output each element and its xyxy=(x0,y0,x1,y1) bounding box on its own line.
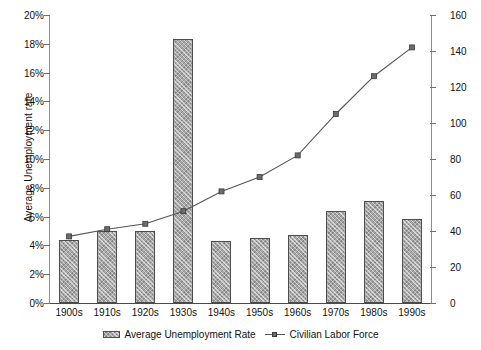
y-left-tick-mark xyxy=(44,130,50,131)
legend-label-unemployment: Average Unemployment Rate xyxy=(125,329,256,340)
y-left-tick-label: 0% xyxy=(2,298,44,309)
x-axis-label-1980s: 1980s xyxy=(360,307,387,318)
x-axis-line xyxy=(49,303,432,304)
y-left-tick-mark xyxy=(44,159,50,160)
x-axis-label-1900s: 1900s xyxy=(55,307,82,318)
y-left-tick-mark xyxy=(44,15,50,16)
civilian-labor-force-line xyxy=(69,47,412,236)
x-axis-label-1950s: 1950s xyxy=(246,307,273,318)
y-right-tick-label: 40 xyxy=(450,226,461,237)
y-right-tick-mark xyxy=(430,303,436,304)
y-left-tick-label: 12% xyxy=(2,125,44,136)
y-left-tick-mark xyxy=(44,44,50,45)
legend-item-unemployment: Average Unemployment Rate xyxy=(103,329,256,340)
y-right-tick-mark xyxy=(430,87,436,88)
y-right-tick-mark xyxy=(430,267,436,268)
chart-legend: Average Unemployment Rate Civilian Labor… xyxy=(0,329,481,340)
marker-1950s xyxy=(257,175,262,180)
y-right-tick-mark xyxy=(430,51,436,52)
y-right-tick-mark xyxy=(430,231,436,232)
marker-1910s xyxy=(105,227,110,232)
y-right-tick-label: 160 xyxy=(450,10,467,21)
y-left-tick-label: 10% xyxy=(2,154,44,165)
x-axis-label-1910s: 1910s xyxy=(94,307,121,318)
y-right-tick-label: 80 xyxy=(450,154,461,165)
y-left-tick-label: 8% xyxy=(2,182,44,193)
x-axis-label-1970s: 1970s xyxy=(322,307,349,318)
y-left-tick-label: 2% xyxy=(2,269,44,280)
y-left-tick-label: 14% xyxy=(2,96,44,107)
marker-1920s xyxy=(143,221,148,226)
y-axis-left-ticks: 0%2%4%6%8%10%12%14%16%18%20% xyxy=(0,0,44,350)
marker-1970s xyxy=(333,112,338,117)
y-right-tick-label: 100 xyxy=(450,118,467,129)
line-series-layer xyxy=(50,15,431,303)
y-left-tick-mark xyxy=(44,101,50,102)
x-axis-label-1990s: 1990s xyxy=(398,307,425,318)
y-left-tick-mark xyxy=(44,274,50,275)
marker-1900s xyxy=(67,234,72,239)
x-axis-label-1920s: 1920s xyxy=(132,307,159,318)
y-right-tick-label: 0 xyxy=(450,298,456,309)
y-right-tick-mark xyxy=(430,159,436,160)
civilian-labor-force-markers xyxy=(67,45,415,239)
x-axis-label-1940s: 1940s xyxy=(208,307,235,318)
y-left-tick-label: 16% xyxy=(2,67,44,78)
y-right-tick-mark xyxy=(430,123,436,124)
y-right-tick-mark xyxy=(430,15,436,16)
y-left-tick-mark xyxy=(44,217,50,218)
y-right-tick-label: 140 xyxy=(450,46,467,57)
y-right-tick-label: 120 xyxy=(450,82,467,93)
legend-label-labor-force: Civilian Labor Force xyxy=(290,329,379,340)
plot-area xyxy=(50,15,431,303)
marker-1990s xyxy=(410,45,415,50)
marker-1930s xyxy=(181,209,186,214)
y-axis-right-ticks: 020406080100120140160 xyxy=(440,0,481,350)
y-left-tick-label: 20% xyxy=(2,10,44,21)
bar-swatch-icon xyxy=(103,331,120,338)
y-left-tick-label: 4% xyxy=(2,240,44,251)
line-marker-icon xyxy=(265,331,285,339)
marker-1940s xyxy=(219,189,224,194)
y-left-tick-mark xyxy=(44,188,50,189)
marker-1980s xyxy=(371,74,376,79)
y-right-tick-label: 60 xyxy=(450,190,461,201)
y-left-tick-mark xyxy=(44,303,50,304)
x-axis-label-1930s: 1930s xyxy=(170,307,197,318)
chart-container: Average Unemployment rate Civilian Labor… xyxy=(0,0,481,350)
x-axis-label-1960s: 1960s xyxy=(284,307,311,318)
legend-item-labor-force: Civilian Labor Force xyxy=(265,329,379,340)
y-left-tick-label: 6% xyxy=(2,211,44,222)
y-right-tick-label: 20 xyxy=(450,262,461,273)
y-left-tick-mark xyxy=(44,245,50,246)
marker-1960s xyxy=(295,153,300,158)
y-left-tick-label: 18% xyxy=(2,38,44,49)
y-left-tick-mark xyxy=(44,73,50,74)
y-right-tick-mark xyxy=(430,195,436,196)
